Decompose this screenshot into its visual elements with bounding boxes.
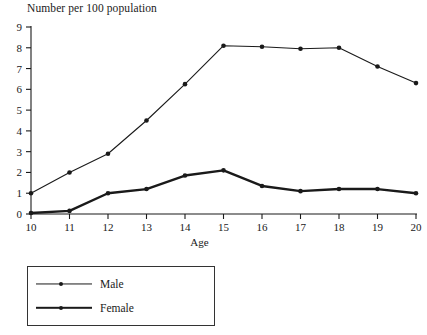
chart-legend: Male Female	[27, 266, 215, 326]
svg-text:11: 11	[64, 221, 75, 233]
chart-axes	[31, 26, 417, 214]
legend-label-male: Male	[92, 278, 124, 290]
svg-text:9: 9	[17, 21, 23, 33]
svg-text:3: 3	[17, 146, 23, 158]
svg-text:15: 15	[218, 221, 230, 233]
legend-item-female: Female	[36, 300, 134, 316]
svg-text:19: 19	[372, 221, 384, 233]
svg-text:12: 12	[103, 221, 114, 233]
svg-text:18: 18	[334, 221, 346, 233]
svg-text:20: 20	[411, 221, 423, 233]
legend-line-marker-male-icon	[36, 278, 92, 290]
svg-text:6: 6	[17, 83, 23, 95]
svg-text:5: 5	[17, 104, 23, 116]
y-axis-ticks: 0123456789	[17, 21, 32, 220]
svg-text:4: 4	[17, 125, 23, 137]
svg-text:2: 2	[17, 166, 23, 178]
chart-container: Number per 100 population 0123456789 101…	[0, 0, 427, 335]
chart-series-lines	[29, 43, 419, 215]
x-axis-label: Age	[0, 236, 427, 248]
svg-text:13: 13	[141, 221, 153, 233]
svg-text:8: 8	[17, 42, 23, 54]
svg-text:0: 0	[17, 208, 23, 220]
svg-text:7: 7	[17, 63, 23, 75]
x-axis-ticks: 1011121314151617181920	[26, 214, 423, 233]
svg-text:10: 10	[26, 221, 38, 233]
svg-text:17: 17	[295, 221, 307, 233]
svg-text:14: 14	[180, 221, 192, 233]
legend-item-male: Male	[36, 276, 124, 292]
svg-text:1: 1	[17, 187, 23, 199]
legend-label-female: Female	[92, 302, 134, 314]
svg-text:16: 16	[257, 221, 269, 233]
legend-line-marker-female-icon	[36, 302, 92, 314]
